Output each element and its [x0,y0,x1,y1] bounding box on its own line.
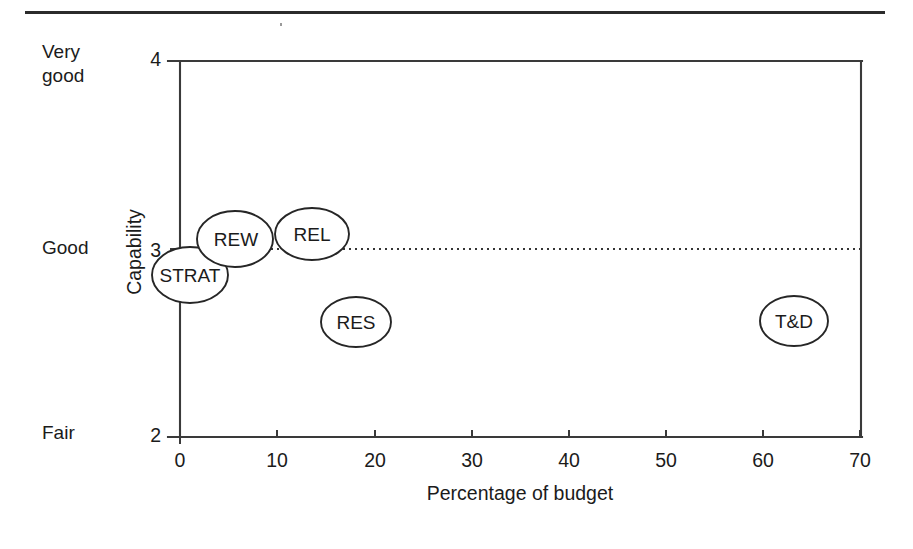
y-category-label-verygood: good [42,65,84,86]
x-tick-label-40: 40 [558,449,580,471]
x-tick-label-30: 30 [461,449,483,471]
x-tick-label-50: 50 [655,449,677,471]
figure-page: 0 10 20 30 40 50 60 70 4 3 2 Very good G… [0,0,913,549]
bubble-label-strat: STRAT [160,265,221,286]
y-category-label-fair: Fair [42,422,75,443]
data-bubble-td[interactable]: T&D [760,296,828,346]
y-tick-label-2: 2 [150,424,161,446]
y-tick-label-4: 4 [150,48,161,70]
x-tick-label-0: 0 [175,449,186,471]
x-tick-label-20: 20 [364,449,386,471]
x-axis-title: Percentage of budget [427,482,614,504]
bubble-label-rew: REW [214,229,258,250]
scatter-chart: 0 10 20 30 40 50 60 70 4 3 2 Very good G… [0,0,913,549]
x-tick-label-70: 70 [849,449,871,471]
data-bubble-rel[interactable]: REL [275,208,349,260]
data-bubble-rew[interactable]: REW [197,211,273,267]
y-axis-title: Capability [123,209,145,295]
bubble-label-td: T&D [775,311,813,332]
bubble-label-rel: REL [294,224,331,245]
x-tick-label-60: 60 [752,449,774,471]
y-category-label-very: Very [42,41,81,62]
y-category-label-good: Good [42,237,88,258]
bubble-label-res: RES [336,312,375,333]
x-tick-label-10: 10 [266,449,288,471]
data-bubble-res[interactable]: RES [321,297,391,347]
